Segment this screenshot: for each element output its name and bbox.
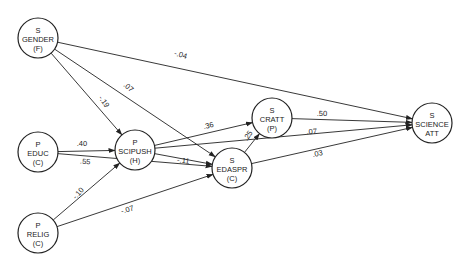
node-edaspr: SEDASPR(C) [212, 148, 252, 188]
node-label-line: (C) [227, 174, 238, 183]
edge-label-cratt-to-science_att: .50 [317, 109, 328, 118]
edge-gender-to-scipush [51, 53, 122, 135]
edge-label-gender-to-edaspr: .07 [122, 80, 136, 94]
edge-label-educ-to-scipush: .40 [77, 139, 87, 148]
edges-layer: -.04-.19.07.40.55-.10-.07.36.07-.11.25.5… [51, 42, 412, 226]
node-scipush: PSCIPUSH(H) [115, 130, 155, 170]
node-label-line: EDUC [27, 149, 49, 158]
node-label-line: (C) [33, 239, 44, 248]
node-label-line: S [429, 111, 434, 120]
edge-label-scipush-to-cratt: .36 [202, 120, 214, 131]
edge-label-relig-to-edaspr: -.07 [120, 203, 135, 215]
node-label-line: RELIG [27, 230, 50, 239]
edge-label-scipush-to-science_att: .07 [306, 127, 317, 137]
node-label-line: (F) [33, 44, 43, 53]
node-relig: PRELIG(C) [18, 213, 58, 253]
node-label-line: P [35, 221, 40, 230]
node-label-line: EDASPR [217, 165, 248, 174]
node-science_att: SSCIENCEATT [412, 103, 452, 143]
node-label-line: CRATT [260, 115, 285, 124]
diagram-canvas: -.04-.19.07.40.55-.10-.07.36.07-.11.25.5… [0, 0, 467, 264]
edge-label-gender-to-scipush: -.19 [97, 94, 112, 110]
edge-label-scipush-to-edaspr: -.11 [177, 155, 191, 166]
node-cratt: SCRATT(P) [252, 98, 292, 138]
node-label-line: (P) [267, 124, 278, 133]
edge-label-educ-to-edaspr: .55 [80, 157, 91, 167]
node-label-line: P [35, 140, 40, 149]
edge-cratt-to-science_att [292, 119, 412, 123]
node-label-line: (H) [130, 156, 141, 165]
edge-relig-to-scipush [53, 163, 120, 220]
node-label-line: S [269, 106, 274, 115]
node-label-line: GENDER [22, 35, 55, 44]
path-diagram: -.04-.19.07.40.55-.10-.07.36.07-.11.25.5… [0, 0, 467, 264]
node-label-line: S [35, 26, 40, 35]
edge-educ-to-scipush [58, 150, 115, 151]
node-label-line: SCIPUSH [118, 147, 151, 156]
node-label-line: P [132, 138, 137, 147]
node-educ: PEDUC(C) [18, 132, 58, 172]
edge-gender-to-science_att [58, 42, 413, 119]
edge-label-relig-to-scipush: -.10 [70, 186, 85, 202]
node-gender: SGENDER(F) [18, 18, 58, 58]
edge-relig-to-edaspr [57, 174, 213, 226]
edge-label-edaspr-to-science_att: .03 [311, 148, 323, 159]
node-label-line: S [229, 156, 234, 165]
node-label-line: (C) [33, 158, 44, 167]
node-label-line: ATT [425, 129, 439, 138]
edge-label-gender-to-science_att: -.04 [173, 48, 188, 60]
node-label-line: SCIENCE [415, 120, 448, 129]
